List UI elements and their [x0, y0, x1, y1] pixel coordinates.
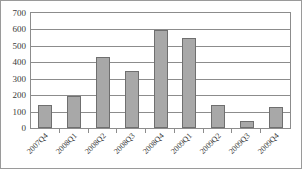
y-tick-label: 700 [13, 9, 27, 18]
bar [38, 105, 52, 128]
bar-slot [175, 13, 204, 128]
x-tick-label: 2009Q3 [228, 132, 252, 156]
bar-chart-figure: 7006005004003002001000 2007Q42008Q12008Q… [0, 0, 302, 169]
y-tick-label: 400 [13, 58, 27, 67]
bar [211, 105, 225, 128]
plot-area [30, 12, 291, 129]
y-tick-label: 500 [13, 41, 27, 50]
y-tick-label: 600 [13, 25, 27, 34]
bar-slot [146, 13, 175, 128]
bar [182, 38, 196, 128]
bar [96, 57, 110, 128]
x-tick-label: 2007Q4 [26, 132, 50, 156]
x-tick-label: 2008Q2 [84, 132, 108, 156]
x-tick-label: 2009Q2 [199, 132, 223, 156]
x-tick-label: 2009Q1 [170, 132, 194, 156]
x-tick-label: 2008Q4 [142, 132, 166, 156]
x-tick-label: 2009Q4 [257, 132, 281, 156]
y-tick-label: 300 [13, 74, 27, 83]
y-tick-label: 200 [13, 91, 27, 100]
bar [240, 121, 254, 128]
bar-slot [89, 13, 118, 128]
bar [67, 96, 81, 128]
y-tick-label: 0 [22, 124, 27, 133]
bar [154, 30, 168, 128]
bar [269, 107, 283, 128]
bar-slot [31, 13, 60, 128]
bar-slot [232, 13, 261, 128]
y-tick-label: 100 [13, 107, 27, 116]
bar-series [31, 13, 290, 128]
x-tick-label: 2008Q3 [113, 132, 137, 156]
bar-slot [60, 13, 89, 128]
x-axis: 2007Q42008Q12008Q22008Q32008Q42009Q12009… [30, 130, 291, 169]
x-tick-label: 2008Q1 [55, 132, 79, 156]
bar [125, 71, 139, 128]
bar-slot [204, 13, 233, 128]
bar-slot [261, 13, 290, 128]
bar-slot [117, 13, 146, 128]
y-axis: 7006005004003002001000 [1, 12, 28, 129]
